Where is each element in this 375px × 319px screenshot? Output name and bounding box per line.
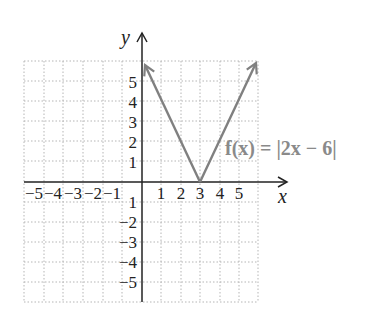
chart: x y −5 −4 −3 −2 −1 1 2 3 4 5 5 4 3 2 1 1… xyxy=(0,0,375,319)
svg-text:−1: −1 xyxy=(103,184,121,203)
svg-text:1: 1 xyxy=(129,153,138,172)
svg-text:−2: −2 xyxy=(84,184,102,203)
svg-text:−5: −5 xyxy=(25,184,43,203)
svg-text:−5: −5 xyxy=(119,273,137,292)
svg-text:−3: −3 xyxy=(64,184,82,203)
svg-text:−2: −2 xyxy=(119,213,137,232)
svg-text:1: 1 xyxy=(129,193,138,212)
y-axis-label: y xyxy=(119,26,130,49)
svg-text:3: 3 xyxy=(129,113,138,132)
svg-text:−4: −4 xyxy=(44,184,63,203)
svg-text:5: 5 xyxy=(235,184,244,203)
svg-text:4: 4 xyxy=(129,93,138,112)
function-label: f(x) = |2x − 6| xyxy=(225,137,337,160)
svg-text:−3: −3 xyxy=(119,233,137,252)
svg-text:4: 4 xyxy=(216,184,225,203)
svg-text:5: 5 xyxy=(129,73,138,92)
svg-text:2: 2 xyxy=(129,133,138,152)
x-axis-label: x xyxy=(277,185,287,207)
svg-text:3: 3 xyxy=(196,184,205,203)
svg-text:2: 2 xyxy=(177,184,186,203)
svg-text:−4: −4 xyxy=(119,253,138,272)
svg-text:1: 1 xyxy=(157,184,166,203)
